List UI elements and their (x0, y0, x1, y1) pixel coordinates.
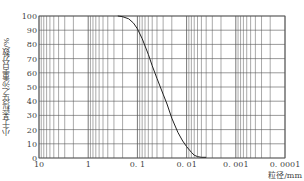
y-tick-label: 90 (27, 26, 37, 35)
x-tick-label: 10 (34, 160, 44, 169)
y-tick-label: 40 (27, 97, 37, 106)
x-axis-label: 粒径/mm (268, 170, 302, 180)
distribution-curve (118, 16, 206, 157)
y-tick-label: 50 (27, 83, 37, 92)
y-tick-label: 80 (27, 40, 37, 49)
y-tick-label: 20 (27, 126, 37, 135)
y-tick-label: 70 (27, 55, 37, 64)
y-tick-label: 10 (27, 140, 37, 149)
x-tick-label: 0. 001 (223, 160, 248, 169)
x-tick-label: 1 (86, 160, 91, 169)
x-tick-label: 0. 01 (176, 160, 196, 169)
y-tick-label: 60 (27, 69, 37, 78)
x-tick-label: 0. 1 (130, 160, 145, 169)
grain-size-chart: 01020304050607080901001010. 10. 010. 001… (0, 0, 304, 181)
x-tick-label: 0. 0001 (270, 160, 301, 169)
y-tick-label: 30 (27, 111, 37, 120)
y-tick-label: 100 (22, 12, 37, 21)
